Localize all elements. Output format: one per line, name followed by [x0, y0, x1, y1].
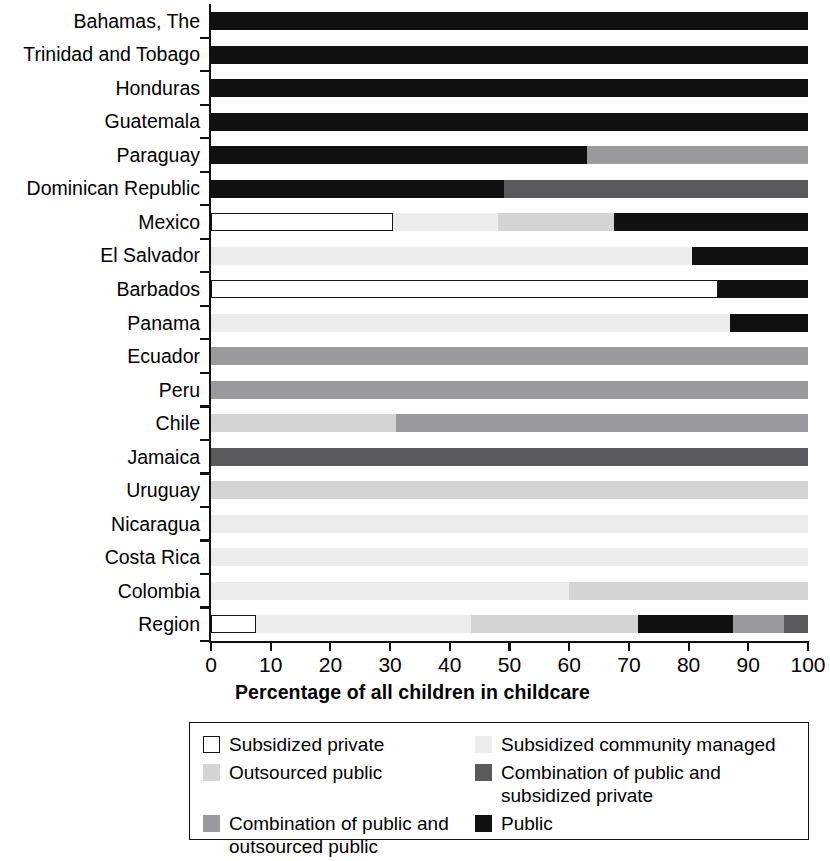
bar-segment	[471, 615, 638, 633]
y-axis-label: Uruguay	[0, 479, 200, 501]
x-axis-tick	[807, 641, 809, 651]
legend-label: Outsourced public	[229, 761, 382, 785]
y-axis-label: Chile	[0, 412, 200, 434]
bar-row	[211, 373, 808, 407]
bar-row	[211, 507, 808, 541]
x-axis-tick	[270, 641, 272, 651]
x-axis-tick	[628, 641, 630, 651]
y-axis-tick	[200, 70, 210, 72]
legend-item[interactable]: Combination of public and outsourced pub…	[203, 811, 475, 861]
y-axis-label: Mexico	[0, 211, 200, 233]
y-axis-label: Bahamas, The	[0, 10, 200, 32]
y-axis-label: Honduras	[0, 77, 200, 99]
y-axis-label: Jamaica	[0, 446, 200, 468]
bar-segment	[730, 314, 808, 332]
x-axis-tick-label: 50	[480, 653, 540, 677]
bar-segment	[393, 213, 497, 231]
y-axis-tick	[200, 37, 210, 39]
bar-track	[211, 381, 808, 399]
legend-swatch-icon	[203, 764, 220, 781]
legend-swatch-icon	[475, 764, 492, 781]
bar-segment	[211, 113, 808, 131]
x-axis-tick-label: 40	[420, 653, 480, 677]
bar-track	[211, 347, 808, 365]
y-axis-tick	[200, 606, 210, 608]
x-axis-tick	[688, 641, 690, 651]
y-axis-tick	[200, 171, 210, 173]
bar-track	[211, 113, 808, 131]
bar-row	[211, 272, 808, 306]
x-axis-tick	[389, 641, 391, 651]
bar-row	[211, 607, 808, 641]
y-axis-tick	[200, 539, 210, 541]
y-axis-label: Region	[0, 613, 200, 635]
bar-segment	[498, 213, 614, 231]
legend-label: Subsidized private	[229, 733, 384, 757]
bar-segment	[211, 280, 718, 298]
bar-row	[211, 406, 808, 440]
bar-row	[211, 138, 808, 172]
bar-track	[211, 414, 808, 432]
legend-item[interactable]: Subsidized private	[203, 732, 475, 760]
bar-row	[211, 172, 808, 206]
bar-track	[211, 180, 808, 198]
y-axis-labels: Bahamas, TheTrinidad and TobagoHondurasG…	[0, 0, 203, 660]
legend-item[interactable]: Combination of public and subsidized pri…	[475, 760, 797, 811]
bar-segment	[211, 46, 808, 64]
x-axis-tick-label: 10	[241, 653, 301, 677]
y-axis-tick	[200, 338, 210, 340]
bar-segment	[211, 314, 730, 332]
x-axis-tick-label: 0	[181, 653, 241, 677]
bar-row	[211, 306, 808, 340]
bar-track	[211, 146, 808, 164]
y-axis-label: Paraguay	[0, 144, 200, 166]
bar-track	[211, 280, 808, 298]
bar-segment	[211, 146, 587, 164]
bar-track	[211, 46, 808, 64]
y-axis-tick	[200, 271, 210, 273]
bar-segment	[211, 548, 808, 566]
y-axis-tick	[200, 405, 210, 407]
x-axis-tick	[568, 641, 570, 651]
bar-segment	[211, 414, 396, 432]
legend-item[interactable]: Subsidized community managed	[475, 732, 797, 760]
y-axis-tick	[200, 439, 210, 441]
y-axis-label: Costa Rica	[0, 546, 200, 568]
bar-row	[211, 71, 808, 105]
bar-track	[211, 213, 808, 231]
legend-item[interactable]: Public	[475, 811, 797, 861]
y-axis-tick	[200, 640, 210, 642]
y-axis-tick	[200, 372, 210, 374]
x-axis-tick-label: 90	[718, 653, 778, 677]
x-axis-tick-label: 60	[539, 653, 599, 677]
bar-track	[211, 615, 808, 633]
bar-segment	[211, 213, 393, 231]
y-axis-label: Ecuador	[0, 345, 200, 367]
bar-segment	[733, 615, 784, 633]
y-axis-tick	[200, 573, 210, 575]
x-axis-tick-label: 80	[659, 653, 719, 677]
bar-segment	[211, 79, 808, 97]
legend-swatch-icon	[203, 736, 220, 753]
y-axis-label: Guatemala	[0, 110, 200, 132]
bar-segment	[692, 247, 808, 265]
bar-segment	[211, 180, 504, 198]
legend-swatch-icon	[475, 736, 492, 753]
bar-segment	[211, 515, 808, 533]
bar-row	[211, 239, 808, 273]
x-axis-tick	[329, 641, 331, 651]
x-axis-tick	[210, 641, 212, 651]
bar-row	[211, 205, 808, 239]
bar-segment	[256, 615, 471, 633]
y-axis-label: Nicaragua	[0, 513, 200, 535]
bar-row	[211, 339, 808, 373]
y-axis-label: Colombia	[0, 580, 200, 602]
bar-segment	[211, 481, 808, 499]
y-axis-tick	[200, 506, 210, 508]
y-axis-label: Peru	[0, 379, 200, 401]
bar-segment	[211, 448, 808, 466]
bar-row	[211, 473, 808, 507]
legend-item[interactable]: Outsourced public	[203, 760, 475, 811]
bar-row	[211, 440, 808, 474]
